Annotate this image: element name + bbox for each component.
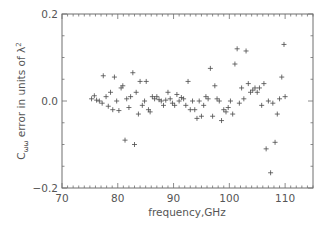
plus-marker-icon <box>159 99 164 104</box>
plus-marker-icon <box>92 93 97 98</box>
plus-marker-icon <box>138 79 143 84</box>
plus-marker-icon <box>201 103 206 108</box>
plus-marker-icon <box>157 97 162 102</box>
plus-marker-icon <box>97 99 102 104</box>
plus-marker-icon <box>273 140 278 145</box>
plus-marker-icon <box>112 75 117 80</box>
plus-marker-icon <box>261 81 266 86</box>
y-label-sub: ωω <box>22 140 30 152</box>
plus-marker-icon <box>223 109 228 114</box>
plus-marker-icon <box>206 96 211 101</box>
plus-marker-icon <box>179 95 184 100</box>
y-tick-label: −0.2 <box>33 182 59 194</box>
plus-marker-icon <box>208 66 213 71</box>
plus-marker-icon <box>142 99 147 104</box>
plus-marker-icon <box>136 112 141 117</box>
plus-marker-icon <box>100 101 105 106</box>
plus-marker-icon <box>255 90 260 95</box>
plus-marker-icon <box>170 101 175 106</box>
plus-marker-icon <box>230 112 235 117</box>
plus-marker-icon <box>181 96 186 101</box>
plus-marker-icon <box>279 75 284 80</box>
plus-marker-icon <box>226 105 231 110</box>
plus-marker-icon <box>116 108 121 113</box>
plus-marker-icon <box>104 94 109 99</box>
plus-marker-icon <box>239 85 244 90</box>
y-tick-label: 0.0 <box>41 95 58 107</box>
plus-marker-icon <box>275 112 280 117</box>
plus-marker-icon <box>101 73 106 78</box>
plus-marker-icon <box>210 114 215 119</box>
plus-marker-icon <box>110 107 115 112</box>
plus-marker-icon <box>123 138 128 143</box>
y-axis-label: Cωω error in units of λ2 <box>15 42 30 159</box>
y-tick-label: 0.2 <box>41 8 58 20</box>
plus-marker-icon <box>132 142 137 147</box>
plus-marker-icon <box>203 94 208 99</box>
plus-marker-icon <box>140 103 145 108</box>
plus-marker-icon <box>252 85 257 90</box>
plus-marker-icon <box>89 96 94 101</box>
plus-marker-icon <box>248 90 253 95</box>
plus-marker-icon <box>161 103 166 108</box>
plus-marker-icon <box>259 103 264 108</box>
plus-marker-icon <box>199 114 204 119</box>
plus-marker-icon <box>235 46 240 51</box>
plus-marker-icon <box>134 90 139 95</box>
plus-marker-icon <box>108 90 113 95</box>
plus-marker-icon <box>215 96 220 101</box>
plus-marker-icon <box>232 62 237 67</box>
plus-marker-icon <box>114 99 119 104</box>
plus-marker-icon <box>128 94 133 99</box>
plus-marker-icon <box>192 107 197 112</box>
plus-marker-icon <box>257 85 262 90</box>
plus-marker-icon <box>266 99 271 104</box>
plus-marker-icon <box>246 81 251 86</box>
plus-marker-icon <box>221 107 226 112</box>
plus-marker-icon <box>194 116 199 121</box>
plus-marker-icon <box>237 101 242 106</box>
plus-marker-icon <box>152 96 157 101</box>
y-label-main: C <box>15 152 27 159</box>
plus-marker-icon <box>154 94 159 99</box>
plus-marker-icon <box>188 107 193 112</box>
x-axis-label: frequency,GHz <box>148 206 226 218</box>
plus-marker-icon <box>281 42 286 47</box>
plus-marker-icon <box>106 104 111 109</box>
plus-marker-icon <box>144 79 149 84</box>
plus-marker-icon <box>163 98 168 103</box>
plus-marker-icon <box>190 99 195 104</box>
plus-marker-icon <box>177 99 182 104</box>
plus-marker-icon <box>277 96 282 101</box>
plus-marker-icon <box>270 101 275 106</box>
plus-marker-icon <box>94 98 99 103</box>
x-tick-label: 80 <box>111 192 124 204</box>
scatter-chart: 708090100110 −0.20.00.2 frequency,GHz Cω… <box>0 0 327 225</box>
x-tick-label: 100 <box>219 192 239 204</box>
plus-marker-icon <box>228 99 233 104</box>
plus-marker-icon <box>250 88 255 93</box>
plus-marker-icon <box>219 118 224 123</box>
plus-marker-icon <box>197 99 202 104</box>
plus-marker-icon <box>186 79 191 84</box>
y-label-sup: 2 <box>15 42 23 46</box>
plus-marker-icon <box>174 92 179 97</box>
plus-marker-icon <box>283 94 288 99</box>
plus-marker-icon <box>130 70 135 75</box>
plus-marker-icon <box>268 170 273 175</box>
plus-marker-icon <box>172 103 177 108</box>
plus-marker-icon <box>150 94 155 99</box>
x-tick-label: 90 <box>167 192 180 204</box>
x-tick-label: 110 <box>275 192 295 204</box>
plus-marker-icon <box>241 96 246 101</box>
plus-marker-icon <box>126 105 131 110</box>
x-tick-labels: 708090100110 <box>55 192 295 204</box>
plus-marker-icon <box>264 146 269 151</box>
plus-marker-icon <box>168 96 173 101</box>
y-tick-labels: −0.20.00.2 <box>33 8 59 194</box>
plus-marker-icon <box>217 99 222 104</box>
plus-marker-icon <box>212 83 217 88</box>
data-points <box>89 42 288 175</box>
plus-marker-icon <box>183 103 188 108</box>
plus-marker-icon <box>124 96 129 101</box>
